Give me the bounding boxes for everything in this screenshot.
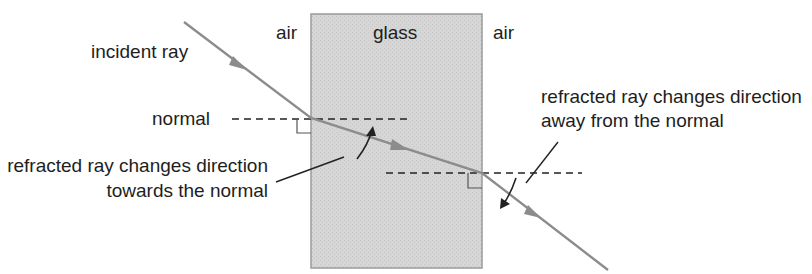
towards-normal-label-line2: towards the normal [106,180,268,201]
away-normal-label-line2: away from the normal [541,110,724,131]
away-normal-label-line1: refracted ray changes direction [541,86,802,107]
normal-label: normal [152,108,210,129]
towards-normal-label-line1: refracted ray changes direction [7,155,268,176]
right-angle-mark-entry [297,119,311,133]
left-air-label: air [276,22,298,43]
refraction-diagram: air glass air incident ray normal refrac… [0,0,812,274]
away-normal-leader [526,142,558,183]
glass-label: glass [373,22,417,43]
right-air-label: air [493,22,515,43]
glass-block [311,14,482,268]
incident-ray-label: incident ray [91,41,189,62]
away-normal-arrowhead [500,198,510,209]
